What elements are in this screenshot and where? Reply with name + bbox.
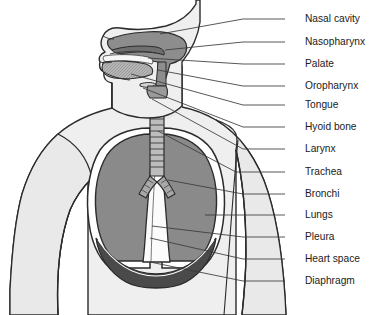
label-lungs: Lungs [305, 209, 333, 220]
head-neck-profile [99, 0, 200, 118]
tongue [102, 61, 153, 79]
label-trachea: Trachea [305, 166, 342, 177]
label-hyoid-bone: Hyoid bone [305, 121, 357, 132]
label-nasal-cavity: Nasal cavity [305, 13, 361, 24]
diagram-canvas: Nasal cavityNasopharynxPalateOropharynxT… [0, 0, 382, 315]
label-palate: Palate [305, 58, 334, 69]
left-arm [10, 134, 92, 315]
label-diaphragm: Diaphragm [305, 275, 355, 286]
label-oropharynx: Oropharynx [305, 80, 358, 91]
label-larynx: Larynx [305, 143, 336, 154]
label-heart-space: Heart space [305, 253, 360, 264]
label-pleura: Pleura [305, 231, 335, 242]
label-nasopharynx: Nasopharynx [305, 36, 365, 47]
label-tongue: Tongue [305, 99, 339, 110]
label-bronchi: Bronchi [305, 188, 340, 199]
label-texts: Nasal cavityNasopharynxPalateOropharynxT… [305, 13, 365, 286]
anatomy-diagram: Nasal cavityNasopharynxPalateOropharynxT… [0, 0, 382, 315]
